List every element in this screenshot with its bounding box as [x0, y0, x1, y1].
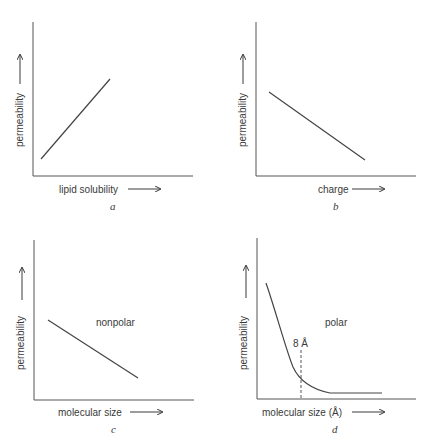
data-line — [41, 79, 110, 159]
y-axis-label: permeability — [15, 316, 26, 370]
y-axis-label: permeability — [237, 93, 248, 147]
data-curve — [266, 283, 382, 393]
panel-letter: c — [111, 423, 116, 435]
annotation-nonpolar: nonpolar — [96, 317, 136, 328]
y-axis-label: permeability — [238, 316, 249, 370]
marker-label: 8 Å — [293, 337, 308, 349]
panel-b: permeability charge b — [237, 22, 416, 212]
panel-d: 8 Å polar permeability molecular size (Å… — [238, 238, 416, 435]
x-axis-label: molecular size (Å) — [262, 406, 342, 418]
panel-a: permeability lipid solubility a — [14, 22, 193, 212]
panel-letter: d — [332, 423, 338, 435]
panel-c: permeability nonpolar molecular size c — [15, 240, 194, 435]
panel-letter: a — [110, 200, 116, 212]
data-line — [269, 92, 365, 160]
x-axis-label: molecular size — [58, 407, 122, 418]
data-line — [48, 320, 138, 378]
x-axis-label: charge — [318, 184, 349, 195]
y-axis-label: permeability — [14, 93, 25, 147]
panel-letter: b — [333, 200, 339, 212]
x-axis-label: lipid solubility — [59, 184, 118, 195]
figure: permeability lipid solubility a permeabi… — [0, 0, 440, 446]
annotation-polar: polar — [325, 317, 348, 328]
